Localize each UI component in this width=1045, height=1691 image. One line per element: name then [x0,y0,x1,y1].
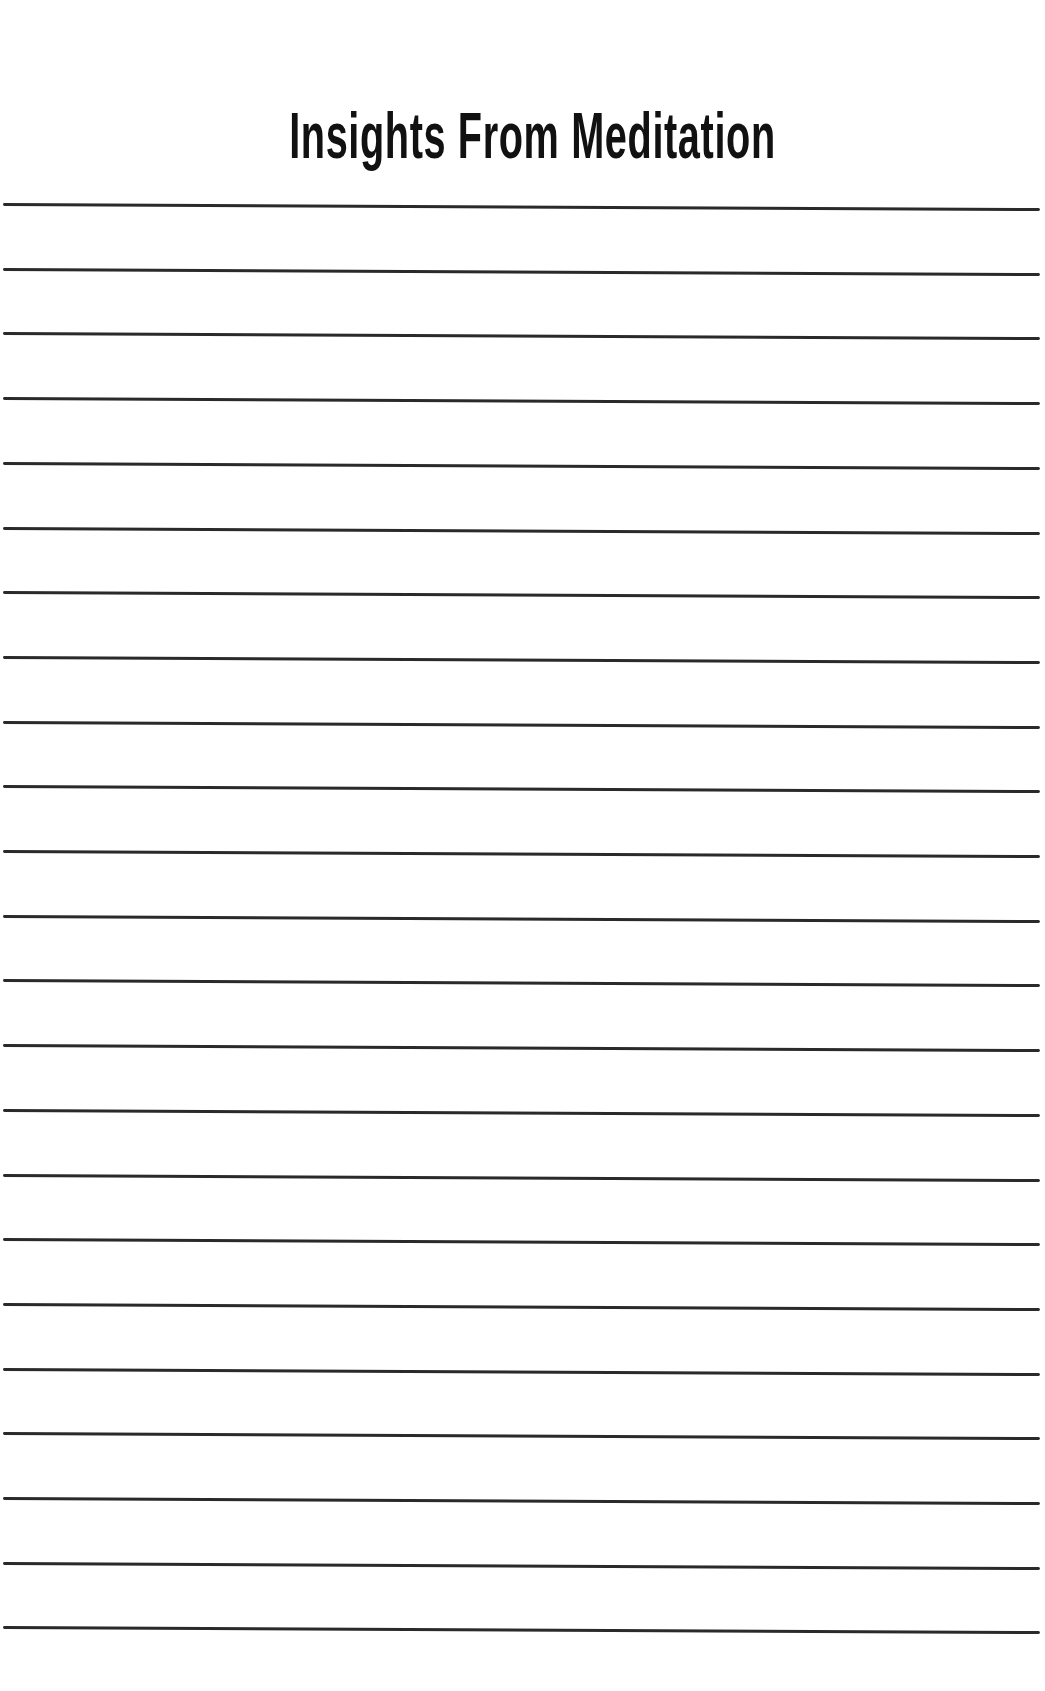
writing-line [3,1432,1040,1440]
writing-line [3,656,1040,664]
writing-line [3,1368,1040,1376]
writing-line [3,527,1040,535]
writing-line [3,721,1040,729]
writing-line [3,1109,1040,1117]
writing-line [3,332,1040,340]
writing-line [3,397,1040,405]
writing-line [3,203,1040,211]
writing-line [3,591,1040,599]
writing-line [3,915,1040,923]
writing-line [3,268,1040,276]
ruled-lines [0,0,1045,1691]
writing-line [3,979,1040,987]
writing-line [3,785,1040,793]
writing-line [3,462,1040,470]
writing-line [3,1238,1040,1246]
writing-line [3,1044,1040,1052]
writing-line [3,1626,1040,1634]
writing-line [3,850,1040,858]
writing-line [3,1497,1040,1505]
writing-line [3,1174,1040,1182]
writing-line [3,1562,1040,1570]
writing-line [3,1303,1040,1311]
